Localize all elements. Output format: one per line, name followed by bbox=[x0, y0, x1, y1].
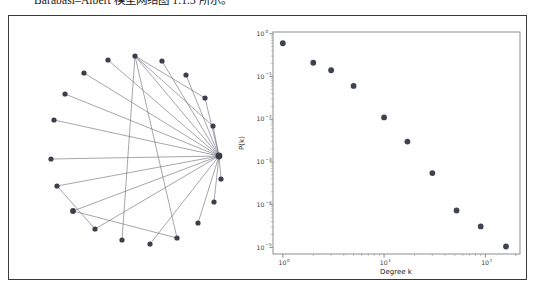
y-axis-tick-label: 100 bbox=[257, 29, 269, 37]
svg-text:10: 10 bbox=[257, 201, 265, 208]
network-edge bbox=[108, 60, 219, 156]
svg-text:10: 10 bbox=[257, 73, 265, 80]
svg-text:2: 2 bbox=[490, 258, 493, 263]
network-node bbox=[81, 70, 86, 75]
figure-frame: 10010110210010−110−210−310−410−5 Degree … bbox=[8, 15, 527, 280]
svg-text:10: 10 bbox=[380, 259, 388, 266]
network-edge bbox=[135, 56, 219, 156]
figure-caption: Barabási–Albert 模型网络图 1.1.3 所示。 bbox=[34, 0, 494, 7]
chart-data-points bbox=[280, 40, 509, 249]
chart-data-point bbox=[405, 139, 411, 145]
network-node bbox=[48, 156, 53, 161]
network-edge bbox=[135, 56, 205, 98]
network-node bbox=[210, 123, 215, 128]
y-axis-tick-label: 10−2 bbox=[257, 114, 273, 122]
x-axis-tick-label: 101 bbox=[380, 258, 391, 266]
svg-text:−1: −1 bbox=[265, 71, 272, 76]
network-node bbox=[218, 176, 223, 181]
chart-data-point bbox=[381, 115, 387, 121]
network-edge bbox=[162, 61, 219, 156]
svg-text:0: 0 bbox=[287, 258, 290, 263]
chart-data-point bbox=[478, 223, 484, 229]
network-node bbox=[202, 95, 207, 100]
svg-text:−4: −4 bbox=[265, 200, 272, 205]
svg-text:−5: −5 bbox=[265, 242, 272, 247]
network-edge bbox=[214, 156, 219, 202]
network-edge bbox=[57, 156, 219, 186]
chart-data-point bbox=[310, 60, 316, 66]
network-node bbox=[62, 91, 67, 96]
network-node bbox=[159, 58, 164, 63]
degree-distribution-chart-panel: 10010110210010−110−210−310−410−5 Degree … bbox=[233, 16, 528, 279]
network-node bbox=[147, 241, 152, 246]
network-node bbox=[119, 237, 124, 242]
network-edge bbox=[73, 211, 177, 238]
network-node-group bbox=[48, 53, 223, 246]
y-axis-tick-label: 10−4 bbox=[257, 200, 273, 208]
svg-text:10: 10 bbox=[257, 244, 265, 251]
x-axis-tick-label: 100 bbox=[279, 258, 290, 266]
chart-data-point bbox=[328, 67, 334, 73]
svg-text:10: 10 bbox=[481, 259, 489, 266]
network-edge bbox=[135, 56, 213, 126]
network-node bbox=[51, 117, 56, 122]
network-edge bbox=[84, 73, 219, 156]
chart-data-point bbox=[351, 83, 357, 89]
network-node bbox=[216, 153, 223, 160]
network-node bbox=[183, 72, 188, 77]
y-axis-tick-label: 10−3 bbox=[257, 157, 273, 165]
network-node bbox=[54, 183, 59, 188]
chart-axes-box bbox=[273, 32, 520, 254]
network-edge bbox=[57, 186, 95, 229]
y-axis-tick-label: 10−5 bbox=[257, 242, 273, 250]
network-edge bbox=[95, 156, 219, 229]
chart-x-axis-label: Degree k bbox=[380, 268, 413, 276]
chart-data-point bbox=[429, 170, 435, 176]
network-edge bbox=[198, 156, 219, 223]
network-node bbox=[132, 53, 137, 58]
svg-text:10: 10 bbox=[257, 158, 265, 165]
network-graph-panel bbox=[9, 16, 241, 279]
svg-text:−2: −2 bbox=[265, 114, 272, 119]
network-node bbox=[174, 235, 179, 240]
network-node bbox=[105, 57, 110, 62]
chart-data-point bbox=[454, 208, 460, 214]
network-edge bbox=[135, 56, 177, 238]
svg-text:−3: −3 bbox=[265, 157, 272, 162]
svg-text:10: 10 bbox=[257, 115, 265, 122]
y-axis-tick-label: 10−1 bbox=[257, 71, 273, 79]
network-edge bbox=[186, 75, 219, 156]
svg-text:10: 10 bbox=[279, 259, 287, 266]
network-node bbox=[195, 220, 200, 225]
chart-tick-labels: 10010110210010−110−210−310−410−5 bbox=[257, 29, 493, 266]
chart-y-axis-label: P(k) bbox=[238, 136, 246, 150]
network-graph-svg bbox=[9, 16, 241, 279]
chart-data-point bbox=[503, 244, 509, 250]
chart-minor-ticks bbox=[269, 34, 515, 258]
network-edge bbox=[219, 156, 221, 179]
degree-distribution-chart-svg: 10010110210010−110−210−310−410−5 Degree … bbox=[233, 16, 528, 279]
network-edge-group bbox=[51, 56, 221, 244]
svg-text:1: 1 bbox=[388, 258, 391, 263]
network-edge bbox=[122, 56, 135, 240]
svg-text:10: 10 bbox=[257, 30, 265, 37]
network-edge bbox=[54, 120, 219, 156]
network-node bbox=[92, 226, 97, 231]
chart-data-point bbox=[280, 40, 286, 46]
network-edge bbox=[65, 94, 219, 156]
svg-text:0: 0 bbox=[265, 29, 268, 34]
network-edge bbox=[51, 156, 219, 159]
x-axis-tick-label: 102 bbox=[481, 258, 492, 266]
network-node bbox=[70, 208, 76, 214]
network-node bbox=[211, 199, 216, 204]
